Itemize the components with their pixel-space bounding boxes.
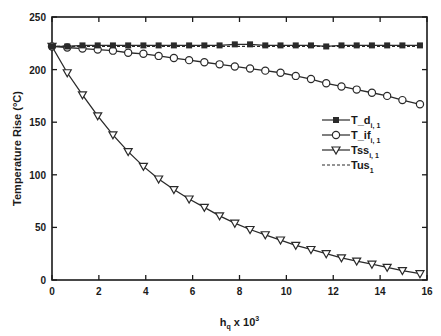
data-point xyxy=(323,80,330,87)
data-point xyxy=(201,42,207,48)
plot-frame xyxy=(52,17,427,280)
data-point xyxy=(186,42,192,48)
data-point xyxy=(417,42,423,48)
data-point xyxy=(110,42,116,48)
data-point xyxy=(217,42,223,48)
data-point xyxy=(64,43,70,49)
data-point xyxy=(277,69,284,76)
y-tick-label: 250 xyxy=(29,12,46,23)
data-point xyxy=(185,196,193,203)
legend: T_di, 1T_ifi, 1Tssi, 1Tus1 xyxy=(322,114,380,174)
data-point xyxy=(338,83,345,90)
data-point xyxy=(200,204,208,211)
legend-label: T_di, 1 xyxy=(351,114,380,130)
x-tick-label: 8 xyxy=(237,286,243,297)
data-point xyxy=(186,57,193,64)
data-point xyxy=(384,92,391,99)
x-tick-label: 0 xyxy=(49,286,55,297)
data-point xyxy=(262,67,269,74)
legend-item-t-if: T_ifi, 1 xyxy=(322,129,380,145)
legend-label: Tssi, 1 xyxy=(351,144,379,160)
data-point xyxy=(125,42,131,48)
legend-item-tss: Tssi, 1 xyxy=(322,144,379,160)
plot-border xyxy=(52,17,427,280)
data-point xyxy=(231,63,238,70)
x-tick-label: 6 xyxy=(190,286,196,297)
data-point xyxy=(140,42,146,48)
data-point xyxy=(125,49,132,56)
y-tick-label: 100 xyxy=(29,170,46,181)
data-point xyxy=(338,42,344,48)
x-tick-label: 10 xyxy=(281,286,293,297)
data-point xyxy=(292,72,299,79)
data-point xyxy=(155,52,162,59)
data-point xyxy=(216,213,224,220)
data-point xyxy=(140,50,147,57)
legend-label: Tus1 xyxy=(351,159,374,174)
data-point xyxy=(278,42,284,48)
legend-item-tus: Tus1 xyxy=(322,159,374,174)
data-point xyxy=(369,42,375,48)
data-point xyxy=(323,43,329,49)
legend-label: T_ifi, 1 xyxy=(351,129,380,145)
data-point xyxy=(155,176,163,183)
data-point xyxy=(399,42,405,48)
x-axis-label: hq x 103 xyxy=(220,315,259,331)
data-point xyxy=(399,97,406,104)
data-point xyxy=(416,271,424,278)
data-point xyxy=(171,42,177,48)
x-tick-label: 16 xyxy=(421,286,433,297)
data-point xyxy=(95,42,101,48)
data-point xyxy=(368,89,375,96)
data-point xyxy=(246,65,253,72)
legend-marker xyxy=(333,117,339,123)
temperature-rise-chart: 0246810121416050100150200250 T_di, 1T_if… xyxy=(0,0,441,336)
y-tick-label: 50 xyxy=(35,222,47,233)
x-tick-label: 2 xyxy=(96,286,102,297)
series-line xyxy=(52,46,420,104)
data-point xyxy=(170,187,178,194)
data-point xyxy=(170,54,177,61)
series-t-if xyxy=(48,43,423,108)
data-point xyxy=(308,42,314,48)
data-point xyxy=(353,86,360,93)
y-tick-label: 0 xyxy=(40,275,46,286)
data-point xyxy=(307,75,314,82)
x-tick-label: 12 xyxy=(328,286,340,297)
y-axis-label: Temperature Rise (°C) xyxy=(11,91,23,206)
x-tick-label: 14 xyxy=(375,286,387,297)
legend-item-t-d: T_di, 1 xyxy=(322,114,380,130)
x-tick-label: 4 xyxy=(143,286,149,297)
data-point xyxy=(232,41,238,47)
data-point xyxy=(49,43,55,49)
data-point xyxy=(416,101,423,108)
data-point xyxy=(79,42,85,48)
data-point xyxy=(216,61,223,68)
data-point xyxy=(201,59,208,66)
data-point xyxy=(384,42,390,48)
data-point xyxy=(262,42,268,48)
series-t-d xyxy=(49,41,423,49)
data-point xyxy=(156,42,162,48)
data-point xyxy=(293,42,299,48)
data-point xyxy=(247,41,253,47)
data-point xyxy=(354,42,360,48)
y-tick-label: 200 xyxy=(29,65,46,76)
y-tick-label: 150 xyxy=(29,117,46,128)
legend-marker xyxy=(332,131,339,138)
